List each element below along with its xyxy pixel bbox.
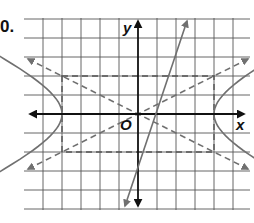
coordinate-plane: y x O bbox=[0, 0, 254, 223]
origin-label: O bbox=[120, 116, 132, 133]
x-axis-label: x bbox=[235, 116, 245, 133]
y-axis-label: y bbox=[122, 19, 132, 36]
